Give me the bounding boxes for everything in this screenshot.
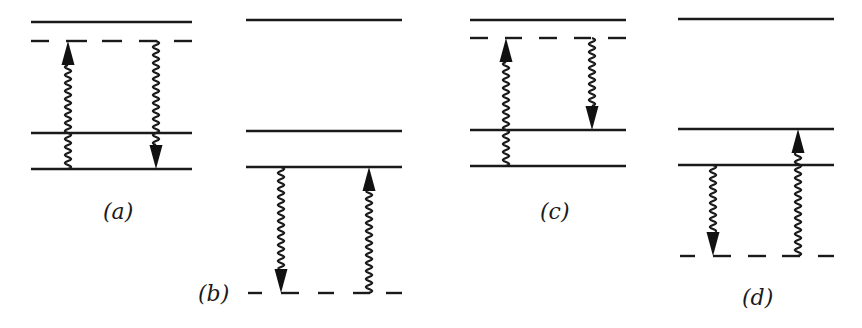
- arrowhead-up-icon: [363, 167, 376, 191]
- panel-label-a: (a): [103, 199, 133, 224]
- absorption-arrow-up: [363, 167, 376, 293]
- wavy-photon-line: [589, 38, 595, 106]
- absorption-arrow-up: [62, 41, 75, 169]
- wavy-photon-line: [795, 153, 801, 256]
- panel-b: (b): [198, 20, 402, 306]
- arrowhead-down-icon: [150, 145, 163, 169]
- arrowhead-up-icon: [792, 129, 805, 153]
- energy-level-diagram: (a) (b) (c): [0, 0, 862, 328]
- arrowhead-down-icon: [707, 232, 720, 256]
- arrowhead-up-icon: [62, 41, 75, 65]
- panel-label-b: (b): [198, 281, 229, 306]
- wavy-photon-line: [153, 41, 159, 145]
- panel-c: (c): [470, 20, 626, 224]
- wavy-photon-line: [65, 65, 71, 169]
- emission-arrow-down: [707, 165, 720, 256]
- wavy-photon-line: [366, 191, 372, 293]
- panel-label-d: (d): [742, 285, 773, 310]
- panel-a: (a): [31, 22, 192, 224]
- absorption-arrow-up: [792, 129, 805, 256]
- absorption-arrow-up: [500, 38, 513, 166]
- panel-label-c: (c): [540, 199, 570, 224]
- emission-arrow-down: [586, 38, 599, 130]
- arrowhead-down-icon: [586, 106, 599, 130]
- wavy-photon-line: [278, 167, 284, 269]
- emission-arrow-down: [275, 167, 288, 293]
- wavy-photon-line: [503, 62, 509, 166]
- arrowhead-down-icon: [275, 269, 288, 293]
- emission-arrow-down: [150, 41, 163, 169]
- wavy-photon-line: [710, 165, 716, 232]
- arrowhead-up-icon: [500, 38, 513, 62]
- panel-d: (d): [678, 19, 834, 310]
